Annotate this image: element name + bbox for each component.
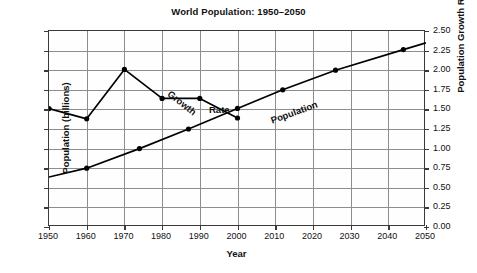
axis-tick-label: 1990 [189, 231, 209, 241]
axis-tick-label: 2040 [377, 231, 397, 241]
axis-tick-label: 1.50 [433, 103, 451, 113]
axis-tick [162, 225, 163, 230]
axis-tick [388, 225, 389, 230]
axis-tick-label: 1980 [151, 231, 171, 241]
axis-tick [424, 90, 429, 91]
axis-tick [44, 70, 49, 71]
axis-tick-label: 1.25 [433, 123, 451, 133]
axis-tick [44, 129, 49, 130]
axis-tick [424, 129, 429, 130]
axis-tick [424, 51, 429, 52]
series-layer [49, 31, 426, 227]
axis-tick-label: 1950 [38, 231, 58, 241]
axis-tick [44, 31, 49, 32]
axis-tick-label: 2020 [302, 231, 322, 241]
data-point [280, 87, 285, 92]
axis-tick [44, 188, 49, 189]
data-point [197, 96, 202, 101]
axis-tick [124, 225, 125, 230]
data-point [49, 106, 52, 111]
data-point [137, 146, 142, 151]
data-point [186, 126, 191, 131]
data-point [122, 67, 127, 72]
axis-tick-label: 2.50 [433, 25, 451, 35]
axis-tick-label: 2000 [226, 231, 246, 241]
axis-tick [424, 168, 429, 169]
chart-figure: World Population: 1950–2050 Growth Ra [0, 0, 477, 273]
data-point [235, 115, 240, 120]
axis-tick [44, 109, 49, 110]
left-axis-title: Population (billions) [60, 30, 71, 226]
axis-tick [426, 225, 427, 230]
axis-tick [44, 149, 49, 150]
axis-tick-label: 2050 [415, 231, 435, 241]
axis-tick [44, 168, 49, 169]
axis-tick-label: 0.50 [433, 182, 451, 192]
plot-area: Growth Rate Population Population (billi… [48, 30, 425, 226]
axis-tick-label: 0.25 [433, 201, 451, 211]
axis-tick-label: 2010 [264, 231, 284, 241]
data-point [84, 166, 89, 171]
axis-tick [200, 225, 201, 230]
data-point [401, 47, 406, 52]
axis-tick [44, 51, 49, 52]
data-point [84, 116, 89, 121]
axis-tick [351, 225, 352, 230]
axis-tick [424, 109, 429, 110]
axis-tick [313, 225, 314, 230]
axis-tick-label: 1970 [113, 231, 133, 241]
axis-tick [87, 225, 88, 230]
axis-tick [424, 70, 429, 71]
axis-tick [275, 225, 276, 230]
axis-tick [44, 207, 49, 208]
axis-tick-label: 0.00 [433, 221, 451, 231]
axis-tick [49, 225, 50, 230]
axis-tick-label: 1.00 [433, 143, 451, 153]
axis-tick [424, 31, 429, 32]
data-point [333, 68, 338, 73]
axis-tick-label: 1.75 [433, 84, 451, 94]
axis-tick-label: 2030 [340, 231, 360, 241]
axis-tick-label: 0.75 [433, 162, 451, 172]
axis-tick [424, 188, 429, 189]
axis-tick [424, 149, 429, 150]
axis-tick [44, 90, 49, 91]
x-axis-title: Year [48, 248, 425, 259]
population-markers [84, 47, 406, 171]
axis-tick-label: 2.25 [433, 45, 451, 55]
axis-tick [424, 207, 429, 208]
axis-tick-label: 2.00 [433, 64, 451, 74]
chart-title: World Population: 1950–2050 [0, 6, 477, 17]
data-point [160, 96, 165, 101]
axis-tick [238, 225, 239, 230]
axis-tick-label: 1960 [76, 231, 96, 241]
rate-label: Rate [209, 104, 230, 115]
data-point [235, 106, 240, 111]
right-axis-title: Population Growth Rate (%) [455, 0, 466, 128]
